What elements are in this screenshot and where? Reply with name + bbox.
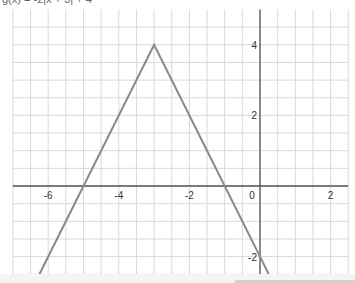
coordinate-plane: -6-4-20242-2 — [0, 0, 355, 283]
y-tick-label: 2 — [251, 110, 257, 121]
x-tick-label: 0 — [249, 190, 255, 201]
grid-lines — [13, 10, 348, 275]
x-tick-label: -2 — [185, 190, 194, 201]
y-tick-label: -2 — [248, 252, 257, 263]
x-tick-label: 2 — [328, 190, 334, 201]
x-tick-label: -6 — [44, 190, 53, 201]
x-tick-label: -4 — [114, 190, 123, 201]
y-tick-label: 4 — [251, 40, 257, 51]
axes — [13, 10, 348, 275]
